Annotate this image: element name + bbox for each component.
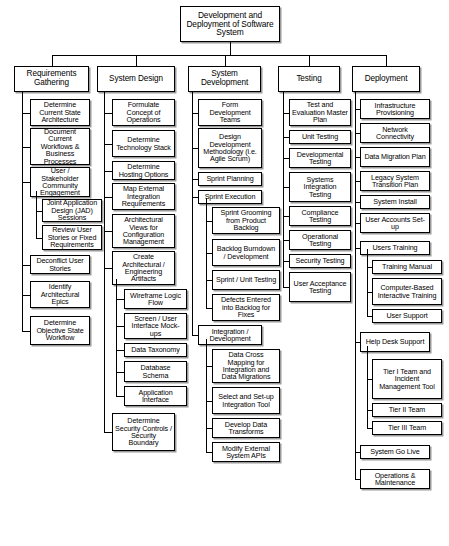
node-label: Security Testing [292,257,348,264]
task-system-design-3: Map External Integration Requirements [112,183,175,210]
tick-task-system-design-4 [104,231,112,232]
spine-requirements-gathering [22,92,23,331]
node-label: User Accounts Set-up [363,216,427,231]
task-requirements-gathering-0: Determine Current State Architecture [30,99,90,126]
node-label: Test and Evaluation Master Plan [292,101,348,123]
task-system-development-0: Form Development Teams [198,99,262,126]
task-requirements-gathering-2: User / Stakeholder Community Engagement [30,167,90,197]
subtask-system-development-11: Develop Data Transforms [212,418,280,438]
node-label: Sprint Execution [201,193,259,200]
node-label: Develop Data Transforms [215,421,277,436]
tick-task-requirements-gathering-2 [22,182,30,183]
subtask-system-design-10: Application Interface [124,386,187,406]
task-requirements-gathering-7: Determine Objective State Workflow [30,316,90,345]
task-system-design-0: Formulate Concept of Operations [112,99,175,126]
header-deployment: Deployment [352,66,420,92]
subspine-ext-system-development-12 [206,339,207,452]
header-testing: Testing [278,66,340,92]
task-system-development-1: Design Development Methodology (i.e. Agi… [198,128,262,168]
tick-task-system-design-2 [104,171,112,172]
task-deployment-5: User Accounts Set-up [360,213,430,233]
node-label: Sprint Grooming from Product Backlog [215,209,277,231]
subtask-system-development-10: Select and Set-up Integration Tool [212,387,280,414]
node-label: Operational Testing [292,233,348,248]
subtask-system-development-12: Modify External System APIs [212,442,280,462]
header-requirements-gathering: Requirements Gathering [14,66,89,92]
spine-system-design [104,92,105,432]
subtask-system-design-8: Data Taxonomy [124,343,187,357]
node-label: System Install [363,198,427,205]
node-label: Screen / User Interface Mock-ups [127,315,184,337]
tick-task-requirements-gathering-0 [22,113,30,114]
tick-task-requirements-gathering-6 [22,295,30,296]
spine-system-development [192,92,193,335]
spine-deployment [355,92,356,479]
task-system-design-2: Determine Hosting Options [112,161,175,180]
tick-subtask-system-design-10 [116,396,124,397]
node-label: Tier II Team [375,406,439,413]
node-label: Database Schema [127,364,184,379]
node-label: Wireframe Logic Flow [127,292,184,307]
node-label: Form Development Teams [201,101,259,123]
node-label: Deconflict User Stories [33,257,87,272]
tick-subtask-system-development-7 [206,308,212,309]
node-label: User Support [375,312,439,319]
tick-task-system-development-8 [192,335,198,336]
node-label: Formulate Concept of Operations [115,101,172,123]
task-testing-4: Compliance Testing [289,206,351,226]
node-label: Determine Security Controls / Security B… [115,417,172,447]
tick-subtask-requirements-gathering-4 [36,238,42,239]
node-label: Identify Architectural Epics [33,283,87,305]
subtask-system-design-9: Database Schema [124,361,187,382]
header-stem-system-development [225,55,226,66]
root-node: Development and Deployment of Software S… [180,6,280,42]
node-label: Map External Integration Requirements [115,185,172,207]
task-requirements-gathering-1: Document Current Workflows & Business Pr… [30,128,90,165]
node-label: Sprint Planning [201,175,259,182]
tick-task-testing-7 [283,287,289,288]
task-system-design-5: Create Architectural / Engineering Artif… [112,251,175,285]
subtask-deployment-9: User Support [372,309,442,323]
node-label: Computer-Based Interactive Training [375,284,439,299]
tick-task-system-design-1 [104,144,112,145]
header-stem-system-design [136,55,137,66]
task-system-design-1: Determine Technology Stack [112,130,175,157]
node-label: Data Cross Mapping for Integration and D… [215,351,277,381]
subtask-system-development-9: Data Cross Mapping for Integration and D… [212,349,280,383]
task-deployment-15: Operations & Maintenance [360,469,430,489]
tick-task-requirements-gathering-7 [22,331,30,332]
subtask-system-development-4: Sprint Grooming from Product Backlog [212,207,280,234]
node-label: Review User Stories or Fixed Requirement… [45,226,99,248]
node-label: Integration / Development [201,328,259,343]
node-label: Help Desk Support [363,338,427,345]
task-deployment-4: System Install [360,195,430,209]
task-deployment-0: Infrastructure Provisioning [360,99,430,119]
node-label: Backlog Burndown / Development [215,245,277,260]
wbs-diagram: Development and Deployment of Software S… [0,0,449,546]
node-label: Data Taxonomy [127,346,184,353]
node-label: System Go Live [363,448,427,455]
node-label: Tier III Team [375,424,439,431]
tick-task-requirements-gathering-1 [22,147,30,148]
spine-testing [283,92,284,287]
subtask-system-development-6: Sprint / Unit Testing [212,270,280,290]
node-label: Compliance Testing [292,209,348,224]
task-requirements-gathering-6: Identify Architectural Epics [30,281,90,308]
subtask-requirements-gathering-3: Joint Application Design (JAD) Sessions [42,199,102,222]
node-label: System Development [191,70,258,87]
node-label: Joint Application Design (JAD) Sessions [45,199,99,221]
node-label: Defects Entered into Backlog for Fixes [215,296,277,318]
node-label: Data Migration Plan [363,153,427,160]
node-label: Unit Testing [292,133,348,140]
tick-task-system-design-5 [104,268,112,269]
header-stem-requirements-gathering [52,55,53,66]
node-label: User / Stakeholder Community Engagement [33,167,87,197]
subtask-system-design-7: Screen / User Interface Mock-ups [124,313,187,339]
node-label: Developmental Testing [292,151,348,166]
node-label: Application Interface [127,389,184,404]
header-system-development: System Development [188,66,261,92]
subspine-ext-system-development-7 [206,198,207,308]
node-label: Document Current Workflows & Business Pr… [33,128,87,165]
node-label: Modify External System APIs [215,445,277,460]
header-system-design: System Design [97,66,175,92]
